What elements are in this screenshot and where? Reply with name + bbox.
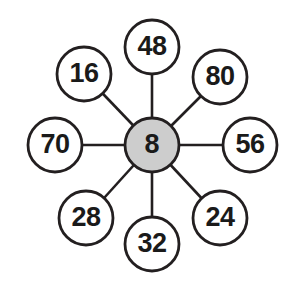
node-upper-right: 80 bbox=[193, 50, 247, 104]
node-lower-left: 28 bbox=[59, 191, 113, 245]
multiplication-wheel-diagram: 48 80 56 24 32 28 bbox=[0, 0, 288, 287]
node-upper-left: 16 bbox=[57, 47, 111, 101]
center-label: 8 bbox=[144, 129, 159, 159]
node-label-upper-left: 16 bbox=[69, 58, 99, 88]
node-label-top: 48 bbox=[137, 31, 167, 61]
node-left: 70 bbox=[28, 118, 82, 172]
node-label-bottom: 32 bbox=[137, 228, 166, 258]
node-label-left: 70 bbox=[40, 129, 69, 159]
node-label-lower-right: 24 bbox=[205, 202, 235, 232]
node-top: 48 bbox=[125, 20, 179, 74]
wheel-canvas: 48 80 56 24 32 28 bbox=[0, 0, 288, 287]
node-label-right: 56 bbox=[235, 129, 265, 159]
center-node: 8 bbox=[125, 118, 179, 172]
node-label-upper-right: 80 bbox=[205, 61, 234, 91]
node-right: 56 bbox=[223, 118, 277, 172]
node-bottom: 32 bbox=[125, 217, 179, 271]
node-label-lower-left: 28 bbox=[71, 202, 101, 232]
node-lower-right: 24 bbox=[193, 191, 247, 245]
